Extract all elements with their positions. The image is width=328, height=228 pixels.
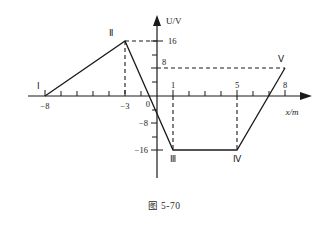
y-label-minus8: −8 <box>139 118 148 128</box>
voltage-position-graph: −8 −3 1 5 8 16 8 0 −8 −16 U/V x/m Ⅰ Ⅱ Ⅲ … <box>0 0 328 198</box>
point-label-ii: Ⅱ <box>109 28 113 38</box>
y-axis-title: U/V <box>166 16 182 26</box>
x-axis-arrow <box>300 92 312 100</box>
point-label-iii: Ⅲ <box>170 154 176 164</box>
y-axis-arrow <box>153 15 161 26</box>
x-label-minus3: −3 <box>120 101 129 111</box>
y-label-8: 8 <box>162 57 166 67</box>
figure-container: −8 −3 1 5 8 16 8 0 −8 −16 U/V x/m Ⅰ Ⅱ Ⅲ … <box>0 0 328 228</box>
x-label-5: 5 <box>235 80 239 90</box>
x-label-1: 1 <box>171 80 175 90</box>
y-label-16: 16 <box>168 36 177 46</box>
point-label-v: Ⅴ <box>278 54 285 64</box>
x-axis-title: x/m <box>285 107 299 117</box>
x-label-8: 8 <box>283 80 287 90</box>
origin-label: 0 <box>146 99 150 109</box>
figure-caption: 图 5-70 <box>0 198 328 212</box>
x-label-minus8: −8 <box>40 101 49 111</box>
x-axis-ticks <box>45 90 285 96</box>
point-label-i: Ⅰ <box>37 81 40 91</box>
point-label-iv: Ⅳ <box>233 154 242 164</box>
y-label-minus16: −16 <box>135 145 148 155</box>
